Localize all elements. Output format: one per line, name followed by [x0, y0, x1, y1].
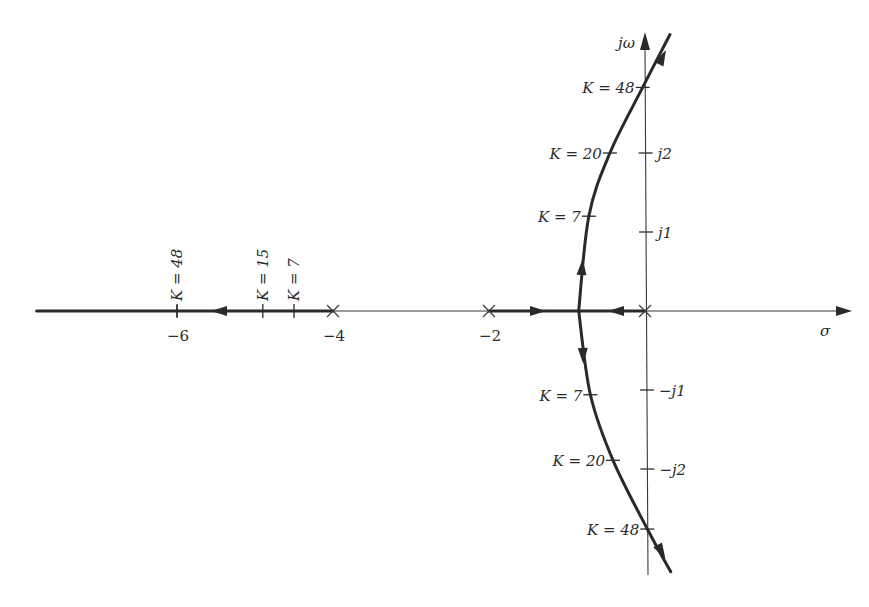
gain-mark-label: K = 20: [552, 452, 606, 470]
locus-arrow-icon: [577, 259, 587, 275]
root-locus-diagram: σjω−6−4−2j2j1−j1−j2K = 48K = 20K = 7K = …: [0, 0, 869, 607]
gain-mark-label: K = 48: [586, 521, 639, 539]
gain-mark-label: K = 7: [537, 208, 581, 226]
imaginary-tick-label: j1: [655, 224, 672, 242]
imaginary-tick-label: j2: [655, 145, 672, 163]
real-axis-arrow-icon: [836, 306, 852, 316]
labels: σjω−6−4−2j2j1−j1−j2K = 48K = 20K = 7K = …: [167, 34, 831, 539]
gain-mark-label: K = 7: [285, 258, 303, 302]
gain-mark-label: K = 48: [581, 79, 634, 97]
imaginary-axis-label: jω: [615, 34, 635, 52]
real-tick-label: −6: [167, 327, 189, 345]
gain-mark-label: K = 7: [539, 387, 583, 405]
imaginary-tick-label: −j1: [659, 382, 686, 400]
real-tick-label: −2: [479, 327, 501, 345]
gain-mark-label: K = 15: [254, 249, 272, 302]
locus-arrow-icon: [211, 306, 227, 316]
gain-mark-label: K = 20: [548, 145, 602, 163]
real-axis-label: σ: [820, 322, 831, 340]
axes: [36, 32, 852, 575]
imaginary-axis-arrow-icon: [640, 32, 650, 50]
locus-arrow-icon: [530, 306, 546, 316]
real-tick-label: −4: [323, 327, 345, 345]
locus-branch-upper: [579, 35, 670, 312]
imaginary-tick-label: −j2: [659, 461, 686, 479]
locus-branches: [37, 35, 671, 572]
gain-mark-label: K = 48: [168, 249, 186, 302]
locus-arrow-icon: [608, 306, 624, 316]
